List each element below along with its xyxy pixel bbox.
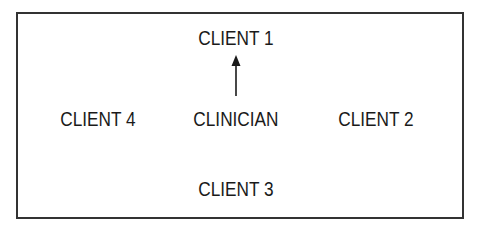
node-client-3-label: CLIENT 3	[198, 178, 273, 200]
node-clinician: CLINICIAN	[176, 108, 296, 130]
arrow-up-icon	[226, 52, 246, 102]
node-clinician-label: CLINICIAN	[193, 108, 278, 130]
node-client-2-label: CLIENT 2	[338, 108, 413, 130]
node-client-1-label: CLIENT 1	[198, 27, 273, 49]
node-client-4: CLIENT 4	[48, 108, 148, 130]
node-client-4-label: CLIENT 4	[60, 108, 135, 130]
node-client-2: CLIENT 2	[326, 108, 426, 130]
node-client-3: CLIENT 3	[186, 178, 286, 200]
node-client-1: CLIENT 1	[186, 27, 286, 49]
